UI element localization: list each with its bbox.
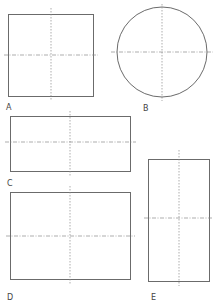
- figure-label-b: B: [143, 104, 149, 113]
- figure-c-rectangle: C: [5, 111, 136, 188]
- figure-a-square: A: [4, 8, 98, 112]
- figure-e-rectangle: E: [144, 150, 213, 302]
- figure-label-a: A: [6, 103, 12, 112]
- figure-d-rectangle: D: [6, 186, 135, 302]
- shapes-diagram: A B C D E: [0, 0, 214, 307]
- figure-b-circle: B: [111, 4, 213, 113]
- figure-label-d: D: [7, 293, 13, 302]
- figure-label-c: C: [7, 179, 13, 188]
- figure-label-e: E: [151, 293, 156, 302]
- rectangle-outline: [11, 117, 131, 172]
